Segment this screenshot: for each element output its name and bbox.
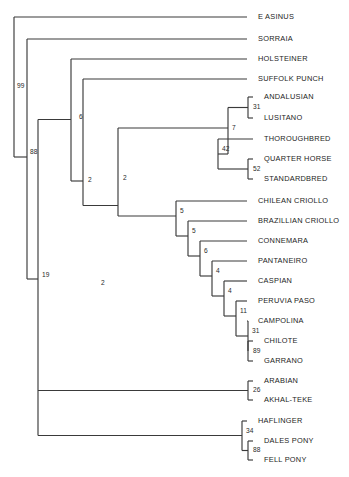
bootstrap-support-label: 2	[123, 175, 127, 182]
bootstrap-support-label: 88	[30, 149, 37, 156]
tip-label: PANTANEIRO	[258, 257, 307, 264]
bootstrap-support-label: 2	[88, 177, 92, 184]
tip-label: ARABIAN	[264, 377, 298, 384]
bootstrap-support-label: 52	[253, 166, 260, 173]
tip-label: BRAZILLIAN CRIOLLO	[258, 217, 339, 224]
bootstrap-support-label: 5	[192, 228, 196, 235]
phylogenetic-tree-figure: E ASINUSSORRAIAHOLSTEINERSUFFOLK PUNCHAN…	[0, 0, 349, 477]
tip-label: HOLSTEINER	[258, 55, 308, 62]
bootstrap-support-label: 34	[246, 428, 253, 435]
bootstrap-support-label: 42	[222, 146, 229, 153]
bootstrap-support-label: 88	[253, 447, 260, 454]
tip-label: ANDALUSIAN	[264, 93, 314, 100]
tip-label: STANDARDBRED	[264, 175, 328, 182]
bootstrap-support-label: 4	[216, 268, 220, 275]
tip-label: PERUVIA PASO	[258, 297, 315, 304]
bootstrap-support-label: 6	[79, 114, 83, 121]
bootstrap-support-label: 31	[253, 104, 260, 111]
bootstrap-support-label: 89	[253, 348, 260, 355]
bootstrap-support-label: 5	[180, 208, 184, 215]
tip-label: CASPIAN	[258, 277, 292, 284]
bootstrap-support-label: 4	[228, 288, 232, 295]
tip-label: E ASINUS	[258, 13, 294, 20]
tip-label: THOROUGHBRED	[264, 135, 331, 142]
tip-label: DALES PONY	[264, 437, 314, 444]
tip-label: GARRANO	[264, 357, 303, 364]
tip-label: FELL PONY	[264, 456, 307, 463]
tip-label: SORRAIA	[258, 35, 293, 42]
bootstrap-support-label: 6	[204, 248, 208, 255]
tip-label: HAFLINGER	[258, 417, 303, 424]
tip-label: CAMPOLINA	[258, 317, 304, 324]
tip-label: SUFFOLK PUNCH	[258, 75, 324, 82]
bootstrap-support-label: 7	[232, 125, 236, 132]
bootstrap-support-label: 2	[101, 280, 105, 287]
tip-label: CHILEAN CRIOLLO	[258, 197, 328, 204]
tip-label: CONNEMARA	[258, 237, 308, 244]
tip-label: CHILOTE	[264, 337, 298, 344]
bootstrap-support-label: 11	[240, 308, 247, 315]
bootstrap-support-label: 31	[252, 328, 259, 335]
bootstrap-support-label: 26	[253, 387, 260, 394]
tip-label: LUSITANO	[264, 114, 302, 121]
tip-label: QUARTER HORSE	[264, 155, 332, 162]
bootstrap-support-label: 19	[42, 272, 49, 279]
tip-label: AKHAL-TEKE	[264, 396, 313, 403]
bootstrap-support-label: 99	[17, 83, 24, 90]
